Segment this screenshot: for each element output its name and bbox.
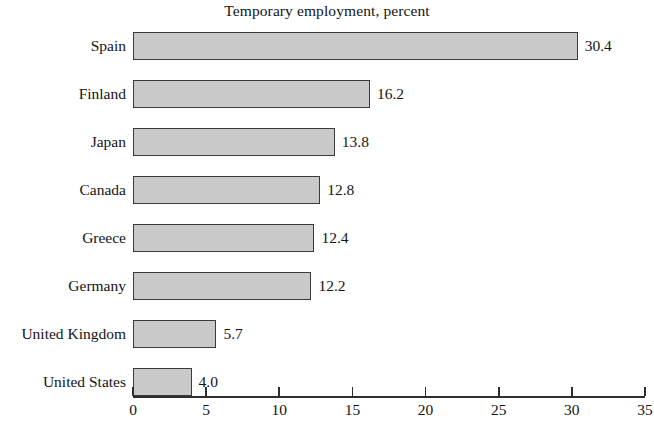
- x-axis-tick: [352, 387, 354, 396]
- bar-row: United Kingdom5.7: [0, 320, 654, 348]
- bar: [133, 128, 335, 156]
- x-axis-tick-label: 25: [491, 401, 507, 419]
- category-label: United States: [0, 368, 126, 396]
- bar: [133, 80, 370, 108]
- bar-row: Finland16.2: [0, 80, 654, 108]
- bar-value-label: 4.0: [199, 368, 218, 396]
- category-label: Spain: [0, 32, 126, 60]
- x-axis-tick-label: 0: [129, 401, 137, 419]
- bar-value-label: 13.8: [342, 128, 369, 156]
- category-label: Finland: [0, 80, 126, 108]
- x-axis-tick-label: 10: [272, 401, 288, 419]
- x-axis-tick: [644, 387, 646, 396]
- bar-value-label: 16.2: [377, 80, 404, 108]
- x-axis-line: [133, 396, 645, 398]
- x-axis-tick: [425, 387, 427, 396]
- x-axis-tick-label: 15: [345, 401, 361, 419]
- bar-chart: Temporary employment, percent Spain30.4F…: [0, 0, 654, 431]
- bar-row: Spain30.4: [0, 32, 654, 60]
- x-axis-tick-label: 20: [418, 401, 434, 419]
- bar-value-label: 5.7: [223, 320, 242, 348]
- category-label: Greece: [0, 224, 126, 252]
- bar-value-label: 12.4: [321, 224, 348, 252]
- bar-value-label: 12.2: [318, 272, 345, 300]
- bar: [133, 32, 578, 60]
- x-axis-tick-label: 5: [202, 401, 210, 419]
- bar-row: Greece12.4: [0, 224, 654, 252]
- x-axis-tick-label: 30: [564, 401, 580, 419]
- x-axis-tick: [278, 387, 280, 396]
- x-axis-tick: [571, 387, 573, 396]
- category-label: Germany: [0, 272, 126, 300]
- category-label: United Kingdom: [0, 320, 126, 348]
- x-axis-tick: [205, 387, 207, 396]
- category-label: Canada: [0, 176, 126, 204]
- bar: [133, 272, 311, 300]
- x-axis-tick-label: 35: [637, 401, 653, 419]
- bar-value-label: 12.8: [327, 176, 354, 204]
- x-axis-tick: [132, 387, 134, 396]
- plot-area: Spain30.4Finland16.2Japan13.8Canada12.8G…: [0, 0, 654, 431]
- bar-row: Japan13.8: [0, 128, 654, 156]
- category-label: Japan: [0, 128, 126, 156]
- bar: [133, 368, 192, 396]
- bar-value-label: 30.4: [585, 32, 612, 60]
- bar-row: Canada12.8: [0, 176, 654, 204]
- x-axis-tick: [498, 387, 500, 396]
- bar-row: Germany12.2: [0, 272, 654, 300]
- bar-row: United States4.0: [0, 368, 654, 396]
- bar: [133, 320, 216, 348]
- bar: [133, 176, 320, 204]
- bar: [133, 224, 314, 252]
